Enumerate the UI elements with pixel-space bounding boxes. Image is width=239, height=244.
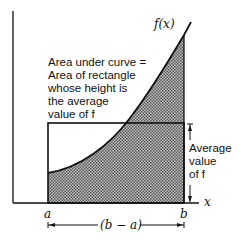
point-a-label: a — [44, 207, 51, 221]
annotation-text: Area under curve = Area of rectangle who… — [47, 56, 149, 120]
average-value-diagram: f(x) Area under curve = Area of rectangl… — [0, 0, 239, 244]
x-axis-label: x — [204, 195, 211, 209]
point-b-label: b — [180, 207, 188, 221]
curve-label: f(x) — [153, 17, 175, 31]
width-label: (b − a) — [100, 218, 142, 232]
